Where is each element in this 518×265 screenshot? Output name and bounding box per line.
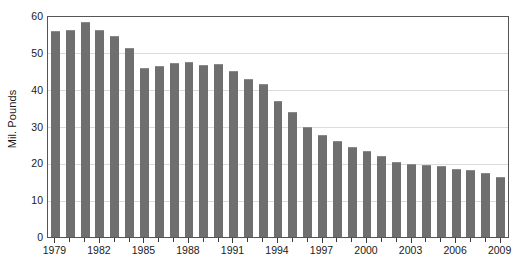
bar <box>452 169 461 238</box>
x-tick-mark <box>292 238 293 242</box>
x-tick-label: 2006 <box>443 244 466 256</box>
bar <box>110 36 119 237</box>
x-tick-mark <box>440 238 441 242</box>
x-tick-mark <box>143 238 144 243</box>
bar <box>274 101 283 237</box>
x-tick-mark <box>307 238 308 242</box>
bar <box>185 62 194 237</box>
bar <box>437 166 446 237</box>
y-tick-label: 20 <box>31 157 43 169</box>
y-axis-title-label: Mil. Pounds <box>6 90 18 149</box>
x-tick-label: 1985 <box>132 244 155 256</box>
y-tick-label: 60 <box>31 10 43 22</box>
bar <box>333 141 342 237</box>
x-tick-mark <box>232 238 233 243</box>
bar <box>318 135 327 237</box>
bar <box>229 71 238 237</box>
bar <box>199 65 208 237</box>
y-tick-label: 10 <box>31 194 43 206</box>
x-tick-label: 1979 <box>43 244 66 256</box>
x-tick-mark <box>500 238 501 243</box>
y-tick-label: 40 <box>31 84 43 96</box>
x-tick-mark <box>84 238 85 242</box>
bar <box>244 79 253 237</box>
x-tick-mark <box>470 238 471 242</box>
x-tick-mark <box>411 238 412 243</box>
x-tick-mark <box>129 238 130 242</box>
bar <box>348 147 357 237</box>
bar <box>392 162 401 238</box>
x-tick-mark <box>173 238 174 242</box>
bar <box>363 151 372 237</box>
bar-chart: Mil. Pounds 0102030405060 19791982198519… <box>0 0 518 265</box>
x-tick-label: 1982 <box>87 244 110 256</box>
x-tick-mark <box>54 238 55 243</box>
x-tick-mark <box>381 238 382 242</box>
x-tick-mark <box>485 238 486 242</box>
bar <box>170 63 179 237</box>
bar <box>66 30 75 237</box>
x-tick-mark <box>425 238 426 242</box>
x-tick-mark <box>114 238 115 242</box>
bar <box>125 48 134 237</box>
x-tick-label: 2009 <box>488 244 511 256</box>
bar <box>155 66 164 237</box>
x-tick-label: 2000 <box>354 244 377 256</box>
x-tick-label: 1988 <box>176 244 199 256</box>
bar <box>214 64 223 237</box>
bar <box>407 164 416 237</box>
x-tick-mark <box>203 238 204 242</box>
x-axis: 1979198219851988199119941997200020032006… <box>47 238 509 265</box>
bars-layer <box>48 17 508 238</box>
x-tick-mark <box>455 238 456 243</box>
y-tick-label: 50 <box>31 47 43 59</box>
bar <box>288 112 297 237</box>
x-tick-mark <box>69 238 70 242</box>
bar <box>481 173 490 237</box>
bar <box>496 177 505 237</box>
bar <box>140 68 149 237</box>
x-tick-mark <box>99 238 100 243</box>
x-tick-label: 1994 <box>265 244 288 256</box>
x-tick-mark <box>351 238 352 242</box>
x-tick-mark <box>396 238 397 242</box>
bar <box>466 170 475 237</box>
x-tick-mark <box>188 238 189 243</box>
x-tick-mark <box>366 238 367 243</box>
x-tick-mark <box>336 238 337 242</box>
x-tick-mark <box>218 238 219 242</box>
bar <box>259 84 268 237</box>
y-tick-label: 0 <box>37 231 43 243</box>
y-tick-label: 30 <box>31 121 43 133</box>
x-tick-mark <box>247 238 248 242</box>
x-tick-mark <box>262 238 263 242</box>
bar <box>303 127 312 238</box>
bar <box>81 22 90 237</box>
x-tick-label: 1997 <box>310 244 333 256</box>
x-tick-mark <box>158 238 159 242</box>
bar <box>95 30 104 237</box>
x-tick-label: 2003 <box>399 244 422 256</box>
y-axis-tick-labels: 0102030405060 <box>18 0 46 265</box>
x-tick-mark <box>322 238 323 243</box>
x-tick-mark <box>277 238 278 243</box>
x-tick-label: 1991 <box>221 244 244 256</box>
bar <box>51 31 60 237</box>
plot-area <box>47 16 509 239</box>
bar <box>377 156 386 237</box>
bar <box>422 165 431 237</box>
